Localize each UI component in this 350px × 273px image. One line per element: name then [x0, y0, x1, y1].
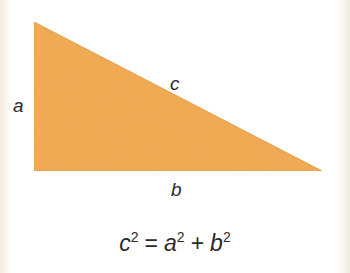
pythagorean-formula: c2=a2+b2: [0, 230, 350, 255]
formula-c-exponent: 2: [131, 229, 139, 245]
formula-b: b: [210, 230, 223, 256]
formula-equals: =: [145, 230, 158, 256]
triangle-shape: [34, 22, 322, 171]
side-c-label: c: [170, 74, 180, 93]
formula-b-exponent: 2: [223, 229, 231, 245]
formula-a: a: [164, 230, 177, 256]
formula-plus: +: [191, 230, 204, 256]
side-a-label: a: [13, 96, 24, 115]
formula-c: c: [119, 230, 131, 256]
formula-a-exponent: 2: [177, 229, 185, 245]
side-b-label: b: [171, 180, 182, 199]
